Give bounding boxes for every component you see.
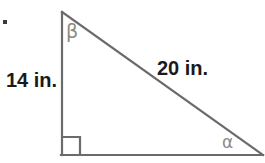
hypotenuse-length-label: 20 in. [157, 58, 208, 78]
vertical-leg-length-label: 14 in. [6, 70, 57, 90]
angle-beta-label: β [66, 22, 78, 41]
angle-alpha-label: α [222, 134, 233, 151]
geometry-figure: 14 in. 20 in. β α [0, 0, 265, 163]
right-angle-marker-icon [62, 137, 80, 155]
